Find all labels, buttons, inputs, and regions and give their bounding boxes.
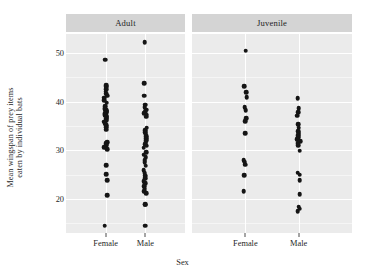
gridline-major [192,199,352,200]
y-axis-title-line-2: eaten by individual bats [15,87,24,187]
y-axis-tick-label: 40 [40,97,64,106]
data-point [142,81,147,86]
data-point [143,40,148,45]
gridline-minor [192,223,352,224]
facet-strip-label: Adult [66,14,185,32]
x-axis-tick-mark [145,233,146,237]
plot-area [66,34,185,234]
data-point [295,209,300,214]
data-point [104,128,109,133]
gridline-major [66,150,185,151]
data-point [143,223,148,228]
facet-panel-adult: Adult [66,14,185,233]
data-point [102,223,107,228]
gridline-major [192,53,352,54]
gridline-major [192,150,352,151]
x-axis-tick-label: Male [290,239,307,248]
data-point [296,143,301,148]
data-point [245,95,250,100]
gridline-major [66,53,185,54]
x-axis-title: Sex [0,258,365,267]
gridline-minor [66,223,185,224]
gridline-minor [192,126,352,127]
x-axis-tick-mark [245,233,246,237]
facet-panel-juvenile: Juvenile [192,14,352,233]
data-point [297,192,302,197]
gridline-vertical [106,34,107,234]
y-axis-title-line-1: Mean wingspan of prey items [6,87,15,187]
plot-area [192,34,352,234]
x-axis-tick-mark [105,233,106,237]
data-point [105,147,110,152]
gridline-minor [66,175,185,176]
data-point [243,163,248,168]
gridline-minor [66,77,185,78]
y-axis-title: Mean wingspan of prey items eaten by ind… [0,0,30,275]
data-point [295,113,300,118]
data-point [243,48,248,53]
y-axis-tick-label: 20 [40,194,64,203]
gridline-major [192,102,352,103]
gridline-major [66,199,185,200]
data-point [104,172,109,177]
data-point [142,93,147,98]
data-point [242,84,247,89]
x-axis-tick-label: Male [137,239,154,248]
data-point [242,189,247,194]
data-point [103,57,108,62]
data-point [144,114,149,119]
data-point [105,193,110,198]
y-axis-tick-label: 30 [40,146,64,155]
figure-root: Mean wingspan of prey items eaten by ind… [0,0,365,275]
y-axis-tick-label: 50 [40,48,64,57]
x-axis-tick-label: Female [233,239,258,248]
gridline-minor [66,126,185,127]
data-point [243,119,248,124]
gridline-minor [192,175,352,176]
data-point [144,191,149,196]
y-axis-tick-labels: 20304050 [40,0,64,275]
data-point [143,202,148,207]
facet-strip-label: Juvenile [192,14,352,32]
data-point [243,131,248,136]
data-point [243,108,248,113]
data-point [298,172,303,177]
gridline-minor [192,77,352,78]
x-axis-tick-label: Female [93,239,118,248]
data-point [298,178,303,183]
data-point [297,148,302,153]
data-point [295,96,300,101]
data-point [105,178,110,183]
gridline-major [66,102,185,103]
data-point [242,173,247,178]
data-point [104,163,109,168]
x-axis-tick-mark [298,233,299,237]
